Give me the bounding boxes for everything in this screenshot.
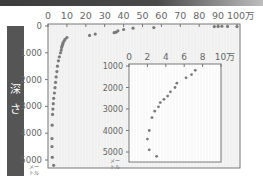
inset-x-tick-label: 2 [145, 52, 151, 62]
inset-data-point [148, 129, 151, 132]
main-unit-label: トル [29, 169, 39, 175]
main-y-tick-label: 4000 [20, 128, 42, 138]
inset-data-point [159, 101, 162, 104]
inset-y-tick-label: 4000 [103, 127, 123, 136]
main-data-point [50, 145, 53, 148]
main-x-tick-label: 100万 [227, 10, 255, 21]
inset-y-tick-label: 2000 [103, 84, 123, 93]
main-data-point [60, 49, 63, 52]
main-data-point [52, 102, 55, 105]
main-data-point [51, 156, 54, 159]
inset-data-point [151, 116, 154, 119]
main-data-point [53, 86, 56, 89]
main-data-point [226, 25, 229, 28]
inset-y-tick-label: 5000 [103, 148, 123, 157]
main-data-point [235, 25, 238, 28]
inset-data-point [190, 73, 193, 76]
main-x-tick-label: 20 [80, 10, 92, 21]
main-data-point [56, 65, 59, 68]
main-data-point [152, 26, 155, 29]
main-y-tick-label: 2000 [20, 75, 42, 85]
inset-data-point [163, 98, 166, 101]
inset-y-tick-label: 1000 [103, 62, 123, 71]
main-data-point [88, 34, 91, 37]
main-data-point [57, 59, 60, 62]
inset-data-point [169, 90, 172, 93]
main-x-tick-label: 60 [155, 10, 167, 21]
main-data-point [59, 51, 62, 54]
main-y-tick-label: 0 [37, 21, 42, 31]
inset-data-point [174, 86, 177, 89]
main-x-tick-label: 90 [212, 10, 224, 21]
inset-unit-label: トル [110, 163, 120, 169]
main-x-tick-label: 50 [136, 10, 148, 21]
inset-x-tick-label: 10万 [215, 52, 235, 62]
main-x-tick-label: 40 [118, 10, 130, 21]
main-data-point [58, 55, 61, 58]
main-data-point [213, 25, 216, 28]
main-x-tick-label: 30 [99, 10, 111, 21]
main-x-tick-label: 70 [174, 10, 186, 21]
inset-data-point [148, 148, 151, 151]
main-data-point [51, 113, 54, 116]
inset-data-point [194, 69, 197, 72]
inset-x-tick-label: 6 [181, 52, 187, 62]
inset-data-point [157, 105, 160, 108]
inset-data-point [166, 95, 169, 98]
main-x-tick-label: 80 [193, 10, 205, 21]
main-data-point [50, 137, 53, 140]
inset-data-point [175, 82, 178, 85]
main-data-point [52, 164, 55, 167]
main-data-point [220, 25, 223, 28]
main-x-tick-label: 10 [61, 10, 73, 21]
inset-data-point [146, 138, 149, 141]
main-y-tick-label: 3000 [20, 101, 42, 111]
depth-chart: 0102030405060708090100万01000200030004000… [0, 0, 263, 182]
main-data-point [51, 124, 54, 127]
main-y-tick-label: 1000 [20, 48, 42, 58]
main-data-point [94, 32, 97, 35]
main-x-tick-label: 0 [45, 10, 51, 21]
main-data-point [52, 97, 55, 100]
main-data-point [55, 75, 58, 78]
main-data-point [51, 107, 54, 110]
inset-y-tick-label: 3000 [103, 105, 123, 114]
inset-data-point [155, 155, 158, 158]
main-data-point [53, 91, 56, 94]
inset-data-point [185, 76, 188, 79]
main-data-point [54, 81, 57, 84]
inset-x-tick-label: 4 [163, 52, 169, 62]
main-data-point [55, 70, 58, 73]
main-data-point [113, 31, 116, 34]
main-data-point [122, 28, 125, 31]
main-data-point [60, 46, 63, 49]
main-data-point [131, 27, 134, 30]
main-data-point [217, 25, 220, 28]
inset-x-tick-label: 8 [200, 52, 206, 62]
inset-x-tick-label: 0 [126, 52, 132, 62]
inset-data-point [153, 110, 156, 113]
